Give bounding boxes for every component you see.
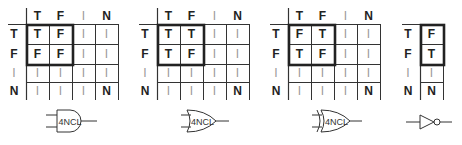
truth-table-cell: I: [203, 44, 226, 64]
row-header: N: [4, 82, 24, 100]
row-header: I: [266, 64, 286, 82]
truth-table-cell: T: [180, 24, 203, 44]
truth-table-cell: I: [72, 24, 95, 44]
truth-table-cell: F: [311, 44, 334, 64]
truth-table-cell: I: [357, 44, 380, 64]
truth-table-cell: I: [334, 24, 357, 44]
row-header: F: [266, 44, 286, 64]
column-header: N: [95, 9, 118, 23]
row-header: I: [135, 64, 155, 82]
truth-table-cell: T: [157, 44, 180, 64]
row-header: T: [398, 24, 418, 44]
truth-table-cell: I: [180, 64, 203, 82]
truth-table-cell: I: [334, 44, 357, 64]
column-header: N: [357, 9, 380, 23]
truth-table-cell: I: [203, 24, 226, 44]
or-gate-icon: 4NCL: [131, 100, 251, 145]
truth-table-cell: F: [420, 24, 443, 44]
truth-table-cell: N: [357, 82, 380, 100]
truth-table-cell: I: [288, 82, 311, 100]
row-header: T: [266, 24, 286, 44]
truth-table-cell: I: [203, 64, 226, 82]
truth-table-cell: I: [311, 64, 334, 82]
truth-table-cell: I: [49, 64, 72, 82]
column-header: T: [26, 9, 49, 23]
truth-table-cell: I: [49, 82, 72, 100]
truth-table-cell: N: [420, 82, 443, 100]
row-header: I: [4, 64, 24, 82]
truth-table-cell: N: [226, 82, 249, 100]
truth-table-cell: I: [226, 44, 249, 64]
row-header: F: [135, 44, 155, 64]
truth-table-cell: T: [420, 44, 443, 64]
truth-table-cell: I: [95, 44, 118, 64]
truth-table-cell: I: [72, 82, 95, 100]
truth-table-cell: T: [157, 24, 180, 44]
row-header: T: [4, 24, 24, 44]
truth-table-cell: F: [26, 44, 49, 64]
truth-table-cell: I: [72, 64, 95, 82]
column-header: F: [180, 9, 203, 23]
truth-table-cell: I: [95, 64, 118, 82]
gate-label: 4NCL: [59, 117, 82, 127]
truth-table-cell: F: [180, 44, 203, 64]
truth-table-cell: F: [49, 44, 72, 64]
truth-table-cell: I: [95, 24, 118, 44]
truth-table-cell: I: [420, 64, 443, 82]
column-header: T: [288, 9, 311, 23]
row-header: I: [398, 64, 418, 82]
row-header: F: [4, 44, 24, 64]
panel-xor: TFINTFINFTIITFIIIIIIIIIN4NCL: [262, 0, 382, 145]
truth-table-cell: I: [334, 82, 357, 100]
truth-table-cell: I: [226, 24, 249, 44]
truth-table-cell: F: [49, 24, 72, 44]
gate-label: 4NCL: [325, 117, 348, 127]
truth-table-cell: I: [26, 82, 49, 100]
row-header: T: [135, 24, 155, 44]
column-header: F: [49, 9, 72, 23]
truth-table-cell: I: [311, 82, 334, 100]
column-header: F: [311, 9, 334, 23]
truth-table-cell: I: [157, 82, 180, 100]
truth-table-cell: I: [180, 82, 203, 100]
panel-or: TFINTFINTTIITFIIIIIIIIIN4NCL: [131, 0, 251, 145]
column-header: I: [334, 9, 357, 23]
panel-and: TFINTFINTFIIFFIIIIIIIIIN4NCL: [0, 0, 120, 145]
column-header: N: [226, 9, 249, 23]
truth-table-cell: I: [288, 64, 311, 82]
column-header: I: [203, 9, 226, 23]
truth-table-cell: I: [357, 24, 380, 44]
truth-table-cell: I: [357, 64, 380, 82]
truth-table-cell: T: [311, 24, 334, 44]
row-header: N: [398, 82, 418, 100]
truth-table-cell: T: [288, 44, 311, 64]
truth-table-cell: I: [26, 64, 49, 82]
row-header: N: [135, 82, 155, 100]
truth-table-cell: I: [157, 64, 180, 82]
xor-gate-icon: 4NCL: [262, 100, 382, 145]
truth-table-cell: I: [226, 64, 249, 82]
panel-not: TFINFTIN: [392, 0, 462, 145]
truth-table-cell: I: [334, 64, 357, 82]
gate-label: 4NCL: [191, 117, 214, 127]
truth-table-cell: I: [72, 44, 95, 64]
truth-table-cell: N: [95, 82, 118, 100]
and-gate-icon: 4NCL: [0, 100, 120, 145]
truth-table-cell: I: [203, 82, 226, 100]
truth-table-cell: T: [26, 24, 49, 44]
truth-table-cell: F: [288, 24, 311, 44]
column-header: I: [72, 9, 95, 23]
row-header: F: [398, 44, 418, 64]
column-header: T: [157, 9, 180, 23]
not-gate-icon: [392, 100, 462, 145]
row-header: N: [266, 82, 286, 100]
